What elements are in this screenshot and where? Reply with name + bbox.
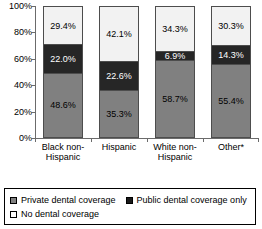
- plot-area: 100% 80% 60% 40% 20% 0% 29.4% 2: [0, 0, 262, 152]
- segment-no-dental-coverage: 34.3%: [156, 7, 194, 52]
- x-axis-category-label-white-non-hispanic: White non- Hispanic: [144, 142, 206, 162]
- y-axis-tick-label: 20%: [0, 108, 32, 117]
- y-axis-tick-label: 80%: [0, 28, 32, 37]
- none-swatch-icon: [10, 211, 17, 218]
- legend-item-private-dental-coverage[interactable]: Private dental coverage: [10, 195, 116, 205]
- segment-value-label: 30.3%: [218, 21, 244, 31]
- legend-item-public-dental-coverage-only[interactable]: Public dental coverage only: [126, 195, 247, 205]
- private-swatch-icon: [10, 197, 17, 204]
- legend-item-no-dental-coverage[interactable]: No dental coverage: [10, 209, 99, 219]
- segment-private-dental-coverage: 58.7%: [156, 61, 194, 137]
- x-axis-category-line: Hispanic: [144, 152, 206, 162]
- chart-legend: Private dental coverage Public dental co…: [4, 188, 256, 225]
- segment-no-dental-coverage: 42.1%: [100, 7, 138, 62]
- stacked-bar-chart: 100% 80% 60% 40% 20% 0% 29.4% 2: [0, 0, 262, 229]
- public-swatch-icon: [126, 197, 133, 204]
- legend-label: Public dental coverage only: [137, 195, 247, 205]
- segment-private-dental-coverage: 35.3%: [100, 91, 138, 137]
- y-axis-tick-label: 60%: [0, 55, 32, 64]
- bar-hispanic[interactable]: 42.1% 22.6% 35.3%: [99, 6, 139, 138]
- segment-public-dental-coverage-only: 14.3%: [212, 46, 250, 65]
- segment-value-label: 58.7%: [162, 94, 188, 104]
- y-axis-labels: 100% 80% 60% 40% 20% 0%: [0, 6, 32, 138]
- x-axis-category-label-hispanic: Hispanic: [88, 142, 150, 152]
- y-axis-tick-label: 40%: [0, 81, 32, 90]
- legend-label: No dental coverage: [21, 209, 99, 219]
- x-axis-category-line: Hispanic: [88, 142, 150, 152]
- bar-group: 29.4% 22.0% 48.6% 42.1% 22.6% 35.3%: [35, 6, 259, 138]
- x-axis-category-line: White non-: [144, 142, 206, 152]
- segment-value-label: 22.6%: [106, 71, 132, 81]
- x-axis-category-line: Hispanic: [32, 152, 94, 162]
- segment-no-dental-coverage: 29.4%: [44, 7, 82, 45]
- legend-row: Private dental coverage Public dental co…: [10, 193, 250, 207]
- segment-value-label: 48.6%: [50, 100, 76, 110]
- segment-public-dental-coverage-only: 6.9%: [156, 52, 194, 61]
- segment-value-label: 14.3%: [218, 50, 244, 60]
- bar-black-non-hispanic[interactable]: 29.4% 22.0% 48.6%: [43, 6, 83, 138]
- segment-value-label: 29.4%: [50, 21, 76, 31]
- segment-value-label: 35.3%: [106, 109, 132, 119]
- bar-other[interactable]: 30.3% 14.3% 55.4%: [211, 6, 251, 138]
- y-axis-tick-label: 100%: [0, 2, 32, 11]
- segment-value-label: 34.3%: [162, 24, 188, 34]
- segment-private-dental-coverage: 48.6%: [44, 74, 82, 137]
- legend-row: No dental coverage: [10, 207, 250, 221]
- x-axis-category-line: Black non-: [32, 142, 94, 152]
- segment-no-dental-coverage: 30.3%: [212, 7, 250, 46]
- bar-white-non-hispanic[interactable]: 34.3% 6.9% 58.7%: [155, 6, 195, 138]
- segment-value-label: 22.0%: [50, 54, 76, 64]
- x-axis-category-label-other: Other*: [200, 142, 262, 152]
- segment-public-dental-coverage-only: 22.0%: [44, 45, 82, 74]
- y-axis-tick-label: 0%: [0, 134, 32, 143]
- x-axis-labels: Black non- Hispanic Hispanic White non- …: [35, 142, 259, 172]
- x-axis-category-line: Other*: [200, 142, 262, 152]
- segment-value-label: 42.1%: [106, 29, 132, 39]
- x-axis-category-label-black-non-hispanic: Black non- Hispanic: [32, 142, 94, 162]
- segment-public-dental-coverage-only: 22.6%: [100, 62, 138, 91]
- legend-label: Private dental coverage: [21, 195, 116, 205]
- segment-private-dental-coverage: 55.4%: [212, 65, 250, 137]
- segment-value-label: 6.9%: [165, 52, 186, 61]
- segment-value-label: 55.4%: [218, 96, 244, 106]
